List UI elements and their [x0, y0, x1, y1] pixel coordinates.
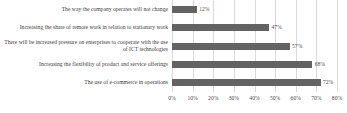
- gridline: [316, 0, 317, 92]
- bar-value-label: 72%: [323, 79, 333, 86]
- bar: [172, 43, 290, 50]
- category-label: The use of e-commerce in operations: [0, 79, 168, 86]
- category-label: There will be increased pressure on ente…: [0, 39, 168, 54]
- x-tick-label: 10%: [187, 94, 197, 102]
- bar-value-label: 57%: [292, 43, 302, 50]
- gridline: [337, 0, 338, 92]
- bar: [172, 6, 197, 13]
- x-tick-label: 20%: [208, 94, 218, 102]
- bar: [172, 61, 312, 68]
- category-axis-labels: The way the company operates will not ch…: [0, 0, 170, 92]
- x-axis: 0%10%20%30%40%50%60%70%80%: [172, 92, 337, 113]
- x-tick-label: 50%: [270, 94, 280, 102]
- plot-area: 12%47%57%68%72%: [172, 0, 337, 92]
- bar-value-label: 47%: [271, 24, 281, 31]
- bar: [172, 79, 321, 86]
- x-tick-label: 0%: [168, 94, 175, 102]
- x-tick-label: 60%: [291, 94, 301, 102]
- x-tick-label: 80%: [332, 94, 342, 102]
- bar: [172, 24, 269, 31]
- category-label: Increasing the flexibility of product an…: [0, 61, 168, 68]
- bar-chart: The way the company operates will not ch…: [0, 0, 347, 113]
- category-label: The way the company operates will not ch…: [0, 6, 168, 13]
- category-label: Increasing the share of remote work in r…: [0, 24, 168, 31]
- bar-value-label: 68%: [315, 61, 325, 68]
- x-tick-label: 40%: [249, 94, 259, 102]
- x-tick-label: 70%: [311, 94, 321, 102]
- bar-value-label: 12%: [199, 6, 209, 13]
- x-tick-label: 30%: [229, 94, 239, 102]
